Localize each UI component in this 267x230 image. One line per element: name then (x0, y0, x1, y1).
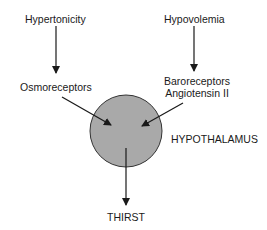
node-hypothalamus: HYPOTHALAMUS (171, 133, 258, 145)
node-baroreceptors: Baroreceptors Angiotensin II (160, 75, 234, 99)
node-osmoreceptors: Osmoreceptors (20, 81, 92, 93)
node-hypovolemia: Hypovolemia (164, 13, 225, 25)
node-baroreceptors-label: Baroreceptors (160, 75, 234, 87)
node-hypertonicity: Hypertonicity (25, 13, 86, 25)
node-thirst: THIRST (107, 211, 145, 223)
diagram-canvas (0, 0, 267, 230)
node-angiotensin-label: Angiotensin II (160, 87, 234, 99)
